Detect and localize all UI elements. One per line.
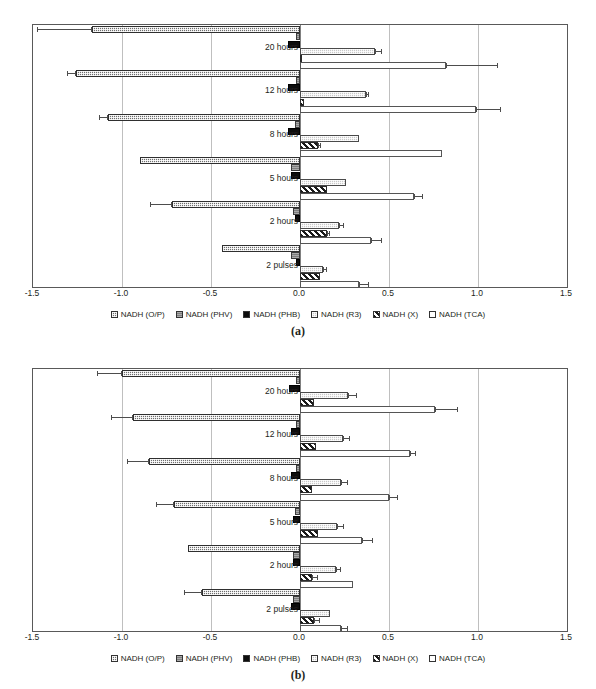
bar-op: [172, 201, 300, 208]
x-tick-label: 1.0: [471, 632, 483, 642]
bar-x: [300, 574, 312, 581]
legend-label: NADH (O/P): [121, 654, 165, 663]
x-tick-label: -0.5: [203, 288, 218, 298]
category-label: 12 hours: [33, 85, 298, 95]
bar-tca: [300, 625, 341, 632]
bar-row: [33, 552, 567, 559]
bar-op: [188, 545, 300, 552]
error-bar-tca: [341, 628, 348, 629]
bar-phv: [296, 421, 300, 428]
legend-item-tca[interactable]: NADH (TCA): [429, 310, 485, 319]
x-tick-label: -1.5: [25, 288, 40, 298]
bar-row: [33, 245, 567, 252]
legend-item-op[interactable]: NADH (O/P): [111, 654, 165, 663]
legend-label: NADH (X): [383, 654, 419, 663]
bar-group: 2 pulses: [33, 587, 567, 631]
figure-page: 20 hours12 hours8 hours5 hours2 hours2 p…: [0, 0, 596, 689]
category-label: 2 hours: [33, 560, 298, 570]
error-bar-tca: [389, 497, 398, 498]
legend-label: NADH (PHB): [253, 654, 300, 663]
bar-row: [33, 486, 567, 493]
bar-row: [33, 33, 567, 40]
bar-r3: [300, 610, 330, 617]
bar-phv: [291, 164, 300, 171]
legend-item-x[interactable]: NADH (X): [373, 654, 419, 663]
legend-item-op[interactable]: NADH (O/P): [111, 310, 165, 319]
bar-r3: [300, 479, 341, 486]
legend-label: NADH (PHB): [253, 310, 300, 319]
error-bar-x: [314, 620, 319, 621]
bar-row: [33, 596, 567, 603]
chart-panel-b: 20 hours12 hours8 hours5 hours2 hours2 p…: [0, 344, 596, 688]
x-tick-label: 1.0: [471, 288, 483, 298]
legend-swatch-r3-icon: [311, 311, 318, 318]
bar-group: 12 hours: [33, 69, 567, 113]
legend-item-phb[interactable]: NADH (PHB): [243, 310, 300, 319]
category-label: 2 pulses: [33, 260, 298, 270]
bar-r3: [300, 266, 323, 273]
chart-panel-a: 20 hours12 hours8 hours5 hours2 hours2 p…: [0, 0, 596, 344]
category-label: 20 hours: [33, 386, 298, 396]
bar-x: [300, 399, 314, 406]
bar-row: [33, 414, 567, 421]
bar-phv: [291, 252, 300, 259]
bar-row: [33, 121, 567, 128]
legend-label: NADH (TCA): [439, 310, 485, 319]
category-label: 5 hours: [33, 517, 298, 527]
error-bar-op: [97, 373, 122, 374]
bar-row: [33, 252, 567, 259]
x-tick-label: 1.5: [560, 288, 572, 298]
bar-op: [133, 414, 300, 421]
error-bar-tca: [371, 240, 382, 241]
bar-row: [33, 157, 567, 164]
error-bar-tca: [362, 540, 373, 541]
legend-item-tca[interactable]: NADH (TCA): [429, 654, 485, 663]
category-label: 8 hours: [33, 473, 298, 483]
bar-row: [33, 273, 567, 280]
legend-item-phv[interactable]: NADH (PHV): [176, 654, 233, 663]
legend-label: NADH (R3): [321, 654, 361, 663]
bar-x: [300, 443, 316, 450]
bar-row: [33, 55, 567, 62]
bar-row: [33, 545, 567, 552]
error-bar-r3: [339, 225, 344, 226]
error-bar-op: [37, 29, 92, 30]
bar-row: [33, 208, 567, 215]
bar-row: [33, 625, 567, 632]
error-bar-tca: [414, 196, 423, 197]
bar-tca: [300, 281, 359, 288]
bar-r3: [300, 91, 366, 98]
legend-swatch-x-icon: [373, 655, 380, 662]
bar-row: [33, 26, 567, 33]
bar-x: [300, 617, 314, 624]
bar-phv: [293, 596, 300, 603]
error-bar-r3: [336, 569, 341, 570]
error-bar-tca: [410, 453, 415, 454]
legend-item-r3[interactable]: NADH (R3): [311, 654, 361, 663]
legend-item-r3[interactable]: NADH (R3): [311, 310, 361, 319]
bar-op: [122, 370, 300, 377]
bar-row: [33, 574, 567, 581]
bar-x: [300, 486, 312, 493]
bar-phv: [296, 33, 300, 40]
bar-row: [33, 443, 567, 450]
error-bar-tca: [435, 409, 458, 410]
legend-swatch-tca-icon: [429, 655, 436, 662]
bar-op: [222, 245, 300, 252]
error-bar-op: [67, 73, 76, 74]
bar-r3: [300, 48, 375, 55]
legend-item-x[interactable]: NADH (X): [373, 310, 419, 319]
bar-row: [33, 589, 567, 596]
bar-groups: 20 hours12 hours8 hours5 hours2 hours2 p…: [33, 25, 567, 287]
bar-group: 8 hours: [33, 456, 567, 500]
error-bar-tca: [446, 65, 498, 66]
error-bar-x: [312, 577, 317, 578]
bar-x: [300, 230, 327, 237]
legend-item-phv[interactable]: NADH (PHV): [176, 310, 233, 319]
error-bar-r3: [348, 395, 357, 396]
legend-swatch-phb-icon: [243, 655, 250, 662]
bar-x: [300, 55, 302, 62]
legend-item-phb[interactable]: NADH (PHB): [243, 654, 300, 663]
legend-swatch-r3-icon: [311, 655, 318, 662]
bar-row: [33, 70, 567, 77]
